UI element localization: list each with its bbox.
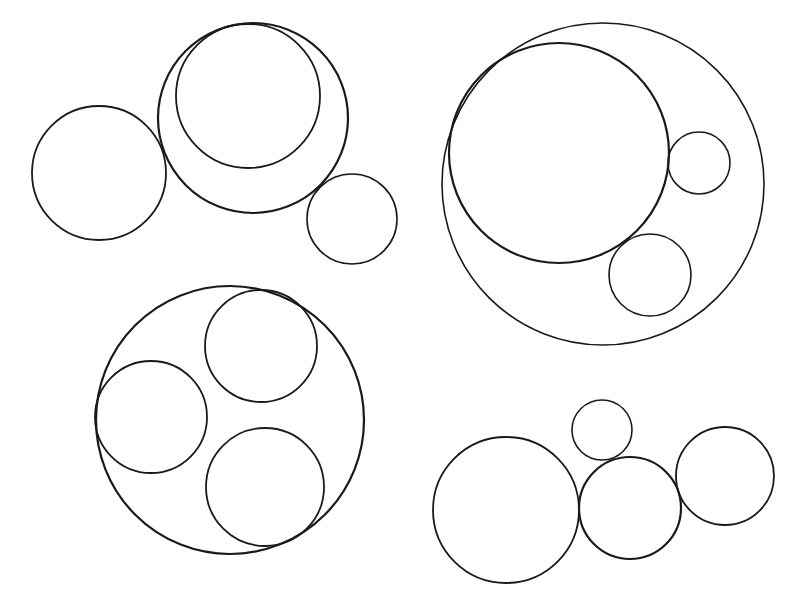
large-circle	[433, 437, 579, 583]
left-circle	[32, 106, 166, 240]
group-bottom-left	[95, 286, 364, 554]
inner-circle-bottom	[206, 428, 324, 546]
small-circle-top	[572, 400, 632, 460]
small-circle-bottom	[609, 234, 691, 316]
small-circle	[307, 174, 397, 264]
large-circle	[158, 23, 348, 213]
diagram-canvas	[0, 0, 798, 609]
inner-circle	[176, 24, 320, 168]
inner-circle-left	[95, 361, 207, 473]
right-circle	[676, 427, 774, 525]
inner-circle-top	[205, 290, 317, 402]
middle-circle	[579, 457, 681, 559]
outer-circle	[442, 23, 764, 345]
group-top-right	[442, 23, 764, 345]
group-top-left	[32, 23, 397, 264]
large-inner-circle	[449, 43, 669, 263]
small-circle-right	[668, 132, 730, 194]
group-bottom-right	[433, 400, 774, 583]
outer-circle	[96, 286, 364, 554]
